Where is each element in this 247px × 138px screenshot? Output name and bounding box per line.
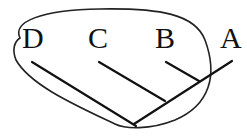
taxon-label-b: B	[155, 21, 175, 54]
branch-b	[166, 62, 199, 81]
branch-c	[99, 62, 165, 101]
cladogram: D C B A	[0, 0, 247, 138]
taxon-label-d: D	[22, 21, 44, 54]
taxon-label-c: C	[88, 21, 108, 54]
branch-d	[32, 62, 136, 126]
taxon-label-a: A	[220, 21, 242, 54]
